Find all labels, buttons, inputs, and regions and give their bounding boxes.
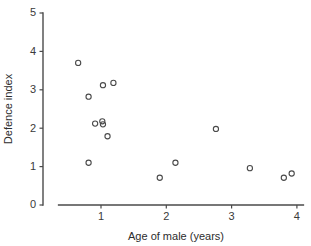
- y-tick-label: 5: [30, 6, 36, 18]
- data-point: [76, 60, 81, 65]
- x-tick-label: 4: [294, 210, 300, 222]
- scatter-plot-figure: 012345 1234 Age of male (years) Defence …: [0, 0, 311, 246]
- data-point: [86, 94, 91, 99]
- data-point: [86, 160, 91, 165]
- y-tick-label: 2: [30, 122, 36, 134]
- x-tick-label: 2: [163, 210, 169, 222]
- x-axis: 1234: [59, 205, 304, 222]
- x-tick-label: 1: [98, 210, 104, 222]
- data-point: [100, 83, 105, 88]
- x-axis-title: Age of male (years): [128, 230, 224, 242]
- y-axis: 012345: [30, 6, 43, 210]
- data-point: [157, 175, 162, 180]
- y-tick-label: 4: [30, 45, 36, 57]
- data-point: [213, 126, 218, 131]
- data-point: [247, 166, 252, 171]
- y-tick-label: 3: [30, 83, 36, 95]
- data-point-group: [76, 60, 295, 180]
- y-tick-label: 0: [30, 198, 36, 210]
- data-point: [105, 134, 110, 139]
- data-point: [111, 80, 116, 85]
- x-tick-label: 3: [229, 210, 235, 222]
- data-point: [281, 175, 286, 180]
- y-tick-label: 1: [30, 160, 36, 172]
- plot-canvas: 012345 1234 Age of male (years) Defence …: [0, 0, 311, 246]
- data-point: [289, 171, 294, 176]
- y-tick-group: 012345: [30, 6, 43, 210]
- x-tick-group: 1234: [98, 205, 300, 222]
- data-point: [173, 160, 178, 165]
- data-point: [93, 121, 98, 126]
- y-axis-title: Defence index: [2, 73, 14, 144]
